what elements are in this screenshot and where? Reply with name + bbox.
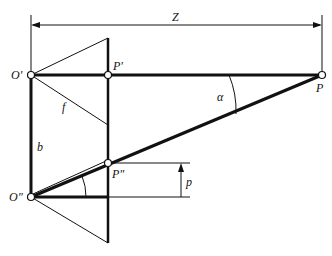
label-b: b bbox=[37, 140, 43, 154]
upper-camera bbox=[31, 38, 108, 125]
stereo-geometry-diagram: Z O' P' P f α b P" O" p bbox=[0, 0, 332, 256]
label-p-prime: P' bbox=[112, 59, 123, 73]
label-alpha: α bbox=[217, 90, 224, 104]
label-p: P bbox=[315, 81, 324, 95]
label-p-double-prime: P" bbox=[111, 167, 125, 181]
arrow-left-icon bbox=[31, 22, 40, 28]
ray-lower-to-p bbox=[31, 75, 322, 197]
label-f: f bbox=[62, 100, 67, 114]
focal-line bbox=[31, 75, 108, 125]
angle-arc-alpha bbox=[229, 75, 236, 114]
angle-arc-lower bbox=[82, 176, 86, 197]
label-o-double-prime: O" bbox=[9, 190, 24, 204]
point-o-prime bbox=[28, 72, 35, 79]
label-z: Z bbox=[172, 10, 179, 24]
dimension-z bbox=[31, 15, 322, 75]
label-o-prime: O' bbox=[11, 68, 23, 82]
point-p bbox=[319, 72, 326, 79]
lower-camera-line bbox=[31, 197, 108, 243]
arrow-right-icon bbox=[313, 22, 322, 28]
arrow-up-icon bbox=[178, 163, 184, 172]
point-p-prime bbox=[105, 72, 112, 79]
point-o-double-prime bbox=[28, 194, 35, 201]
label-p-parallax: p bbox=[185, 175, 192, 189]
point-p-double-prime bbox=[105, 160, 112, 167]
ray-lower-image bbox=[33, 161, 106, 194]
